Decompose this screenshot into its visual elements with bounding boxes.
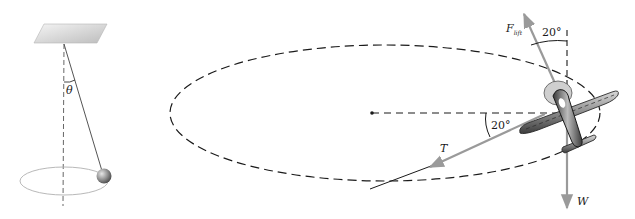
ceiling-support [34,24,107,43]
airplane [520,81,619,153]
tension-force-arrow [430,114,545,167]
pendulum-circular-path [20,167,108,195]
theta-angle-arc [64,80,75,82]
airplane-turn-figure: T 20° Flift 20° W [170,14,618,208]
pendulum-bob [97,169,112,184]
lift-angle-label: 20° [542,26,562,39]
tension-extension-line [370,166,431,189]
theta-label: θ [66,84,73,97]
lift-label: Flift [505,22,523,37]
tension-angle-arc [486,113,491,137]
conical-pendulum-figure: θ [20,24,112,206]
lift-subscript: lift [514,29,523,37]
physics-diagram: θ T 20° Flift 20° W [0,0,635,219]
tension-angle-label: 20° [491,119,511,132]
lift-symbol: F [505,22,514,35]
tension-label: T [440,142,449,155]
weight-label: W [577,195,590,208]
pendulum-string [64,44,102,171]
vertical-axis-dashed [63,44,64,206]
